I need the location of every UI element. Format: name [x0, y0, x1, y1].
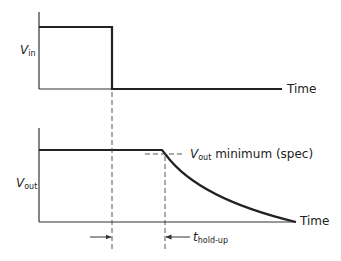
vout-panel: Vout Time Vout minimum (spec): [16, 128, 329, 228]
vin-panel: Vin Time: [20, 12, 316, 96]
vin-label: Vin: [20, 43, 36, 58]
hold-up-time-diagram: Vin Time Vout Time Vout minimum (spec) t…: [0, 0, 341, 261]
vout-min-spec-label: Vout minimum (spec): [190, 147, 313, 162]
vin-time-label: Time: [286, 82, 316, 96]
vout-time-label: Time: [299, 214, 329, 228]
vout-label: Vout: [16, 176, 37, 191]
holdup-time-label: thold-up: [193, 230, 228, 245]
vin-waveform: [39, 27, 282, 89]
